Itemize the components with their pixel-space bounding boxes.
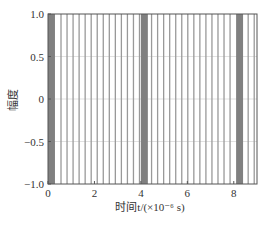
svg-text:0: 0 xyxy=(39,93,45,105)
svg-text:6: 6 xyxy=(185,187,191,199)
svg-text:8: 8 xyxy=(231,187,237,199)
x-axis-label: 时间t/(×10⁻⁶ s) xyxy=(115,201,185,214)
svg-text:0.5: 0.5 xyxy=(30,51,44,63)
y-axis-ticks: 1.00.50−0.5−1.0 xyxy=(24,8,51,190)
svg-text:−1.0: −1.0 xyxy=(24,178,44,190)
svg-text:0: 0 xyxy=(45,187,51,199)
svg-text:1.0: 1.0 xyxy=(30,8,44,20)
svg-text:2: 2 xyxy=(92,187,98,199)
svg-text:−0.5: −0.5 xyxy=(24,136,44,148)
y-axis-label: 幅度 xyxy=(6,89,19,111)
svg-text:4: 4 xyxy=(138,187,144,199)
chirp-signal-chart: 1.00.50−0.5−1.0 02468 幅度 时间t/(×10⁻⁶ s) xyxy=(0,0,263,229)
